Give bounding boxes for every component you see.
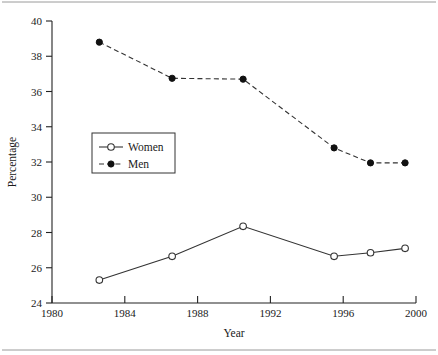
data-point-men[interactable]	[240, 76, 246, 82]
data-point-men[interactable]	[96, 39, 102, 45]
data-point-men[interactable]	[331, 145, 337, 151]
x-tick-label: 1980	[41, 307, 64, 319]
y-tick-label: 28	[31, 227, 43, 239]
y-tick-label: 36	[31, 86, 43, 98]
line-chart: 242628303234363840 198019841988199219962…	[0, 0, 438, 355]
data-point-women[interactable]	[331, 253, 338, 260]
chart-background	[0, 0, 438, 355]
x-tick-label: 1992	[259, 307, 281, 319]
y-axis-title: Percentage	[6, 137, 19, 187]
data-point-men[interactable]	[367, 160, 373, 166]
data-point-women[interactable]	[96, 277, 103, 284]
data-point-men[interactable]	[402, 160, 408, 166]
x-tick-label: 1988	[187, 307, 210, 319]
chart-legend[interactable]: WomenMen	[92, 133, 175, 173]
y-tick-label: 34	[31, 121, 43, 133]
legend-label-men: Men	[128, 158, 149, 170]
y-tick-label: 32	[31, 156, 42, 168]
y-tick-label: 38	[31, 50, 43, 62]
legend-marker-men	[108, 161, 114, 167]
data-point-women[interactable]	[240, 223, 247, 230]
y-tick-label: 26	[31, 262, 43, 274]
x-axis-title: Year	[223, 327, 244, 339]
data-point-men[interactable]	[169, 75, 175, 81]
x-tick-label: 1984	[114, 307, 137, 319]
legend-marker-women	[108, 144, 115, 151]
legend-label-women: Women	[128, 141, 164, 153]
y-tick-label: 40	[31, 15, 43, 27]
data-point-women[interactable]	[367, 249, 374, 256]
y-tick-label: 30	[31, 191, 43, 203]
data-point-women[interactable]	[169, 253, 176, 260]
chart-figure: 242628303234363840 198019841988199219962…	[0, 0, 438, 355]
x-tick-label: 2000	[405, 307, 428, 319]
x-tick-label: 1996	[332, 307, 355, 319]
data-point-women[interactable]	[402, 245, 409, 252]
